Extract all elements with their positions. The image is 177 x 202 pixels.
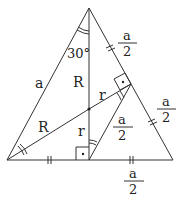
label-half-inner-num: a [118,112,126,127]
label-R-left: R [38,119,49,135]
label-r-vertical: r [78,123,85,139]
label-half-base-num: a [129,166,137,181]
centroid-dot [87,107,90,110]
label-angle-30: 30° [67,46,90,61]
label-r-right: r [99,87,106,103]
side-foot-angle-arc-2 [117,93,121,100]
side-foot-angle-arc [120,91,124,98]
label-half-inner-den: 2 [118,128,126,143]
right-angle-base-dot [82,153,84,155]
triangle-outline [7,8,173,160]
base-mid-angle-arc [89,143,96,145]
right-angle-side-dot [122,81,124,83]
label-half-upper-den: 2 [123,44,131,59]
label-half-lower-den: 2 [162,110,170,125]
equilateral-triangle-diagram: a 30° R R r r a 2 a 2 a 2 a 2 [0,0,177,202]
base-mid-angle-arc-2 [89,140,97,142]
label-half-base-den: 2 [129,182,137,197]
label-side-a: a [35,75,43,91]
apex-angle-arc [78,27,89,31]
label-R-vertical: R [73,74,84,90]
label-half-upper-num: a [123,28,131,43]
label-half-lower-num: a [162,94,170,109]
